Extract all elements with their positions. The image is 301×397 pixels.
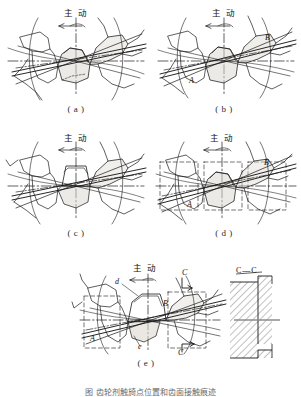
panel-a-drive-label: 主 动 (64, 6, 88, 18)
panel-d-label-A: A (187, 200, 192, 209)
panel-e-label-e: e (138, 342, 142, 351)
panel-c-drawing (2, 130, 150, 228)
panel-e-label-A: A (90, 334, 95, 343)
panel-d-label-B: B (264, 158, 269, 167)
section-view-drawing (228, 266, 298, 362)
section-mark-bottom (182, 342, 194, 353)
panel-b-caption: ( b ) (194, 104, 254, 114)
panel-e: 主 动 (58, 258, 248, 358)
panel-c-drive-label: 主 动 (64, 131, 88, 143)
section-view-cc: C—C (228, 266, 298, 362)
panel-b-drive-label: 主 动 (212, 6, 236, 18)
section-view-title: C—C (236, 266, 258, 275)
panel-d: 主 动 (152, 130, 300, 228)
contact-patch (204, 172, 236, 208)
panel-b-drawing (152, 4, 300, 104)
panel-b-label-B: B (265, 33, 270, 42)
panel-a-drawing (2, 4, 150, 104)
panel-e-label-d: d (115, 277, 119, 286)
section-hatch (230, 276, 272, 358)
panel-b-label-A: A (189, 76, 194, 85)
panel-b: 主 动 (152, 4, 300, 104)
panel-c-caption: ( c ) (46, 228, 106, 238)
panel-a-caption: ( a ) (46, 104, 106, 114)
panel-d-drawing (152, 130, 300, 228)
panel-d-drive-label: 主 动 (210, 131, 234, 143)
panel-e-drive-label: 主 动 (133, 261, 157, 273)
section-mark-top (182, 278, 192, 291)
panel-e-caption: ( e ) (116, 358, 176, 368)
bottom-caption: 图 齿轮剂触旑点位置和齿面接触痕迹 (0, 387, 301, 397)
contact-patch (128, 322, 160, 342)
panel-c: 主 动 (2, 130, 150, 228)
panel-a: 主 动 (2, 4, 150, 104)
panel-e-drawing (58, 258, 248, 358)
panel-e-label-B: B (163, 299, 168, 308)
panel-e-section-mark-label-bottom: C (178, 348, 183, 357)
panel-d-caption: ( d ) (194, 228, 254, 238)
panel-e-section-mark-label-top: C (182, 268, 187, 277)
